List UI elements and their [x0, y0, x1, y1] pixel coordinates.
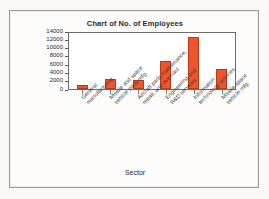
y-tick-label: 2000 [50, 77, 63, 83]
y-tick-label: 0 [60, 86, 63, 92]
x-axis-category-labels: GeneralmanufacturingMissile and spaceveh… [68, 93, 258, 165]
y-tick-label: 14000 [46, 28, 63, 34]
y-axis-ticks: 02000400060008000100001200014000 [10, 32, 68, 90]
y-tick-label: 6000 [50, 61, 63, 67]
y-tick-label: 10000 [46, 44, 63, 50]
chart-canvas: Chart of No. of Employees No. of employe… [10, 11, 260, 189]
y-tick-label: 4000 [50, 69, 63, 75]
x-axis-title: Sector [10, 169, 260, 176]
y-tick-label: 8000 [50, 52, 63, 58]
bar-slot [69, 33, 97, 89]
y-tick-label: 12000 [46, 36, 63, 42]
chart-frame: Chart of No. of Employees No. of employe… [9, 10, 259, 188]
chart-screenshot: Chart of No. of Employees No. of employe… [0, 0, 269, 199]
